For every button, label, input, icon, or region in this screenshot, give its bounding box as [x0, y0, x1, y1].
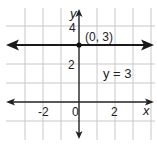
x-tick-2: 2: [111, 105, 118, 119]
y-axis-label: y: [69, 6, 78, 21]
x-tick-neg2: -2: [38, 105, 49, 119]
point-0-3: [76, 42, 81, 47]
x-tick-0: 0: [72, 105, 79, 119]
y-axis: [76, 9, 83, 139]
point-label: (0, 3): [85, 30, 113, 44]
x-axis-label: x: [142, 103, 150, 118]
x-axis: [6, 99, 154, 106]
y-tick-2: 2: [68, 58, 75, 72]
y-tick-4: 4: [69, 21, 76, 35]
grid: [6, 8, 155, 140]
equation-label: y = 3: [103, 66, 132, 81]
coordinate-graph: y 4 2 (0, 3) y = 3 -2 0 2 x: [0, 0, 157, 146]
